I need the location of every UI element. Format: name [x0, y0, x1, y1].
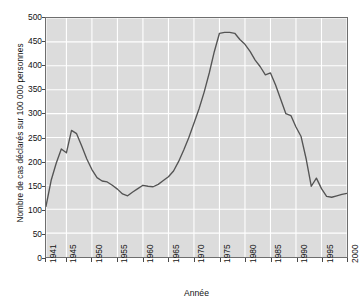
x-tick-label: 1985: [274, 244, 283, 263]
x-tick-label: 1970: [197, 244, 206, 263]
x-tick-label: 2000: [351, 244, 360, 263]
x-tick-label: 1960: [146, 244, 155, 263]
x-axis-title: Année: [45, 288, 348, 298]
y-tick-label: 300: [18, 109, 42, 118]
x-tick-label: 1995: [326, 244, 335, 263]
y-tick-label: 250: [18, 133, 42, 142]
x-tick-label: 1945: [69, 244, 78, 263]
x-tick-mark: [194, 258, 195, 262]
x-tick-mark: [117, 258, 118, 262]
y-tick-label: 400: [18, 61, 42, 70]
x-tick-label: 1950: [95, 244, 104, 263]
x-tick-mark: [91, 258, 92, 262]
y-tick-label: 150: [18, 181, 42, 190]
x-tick-label: 1975: [223, 244, 232, 263]
y-tick-label: 100: [18, 205, 42, 214]
y-axis-tick-labels: 050100150200250300350400450500: [18, 17, 42, 258]
x-tick-mark: [347, 258, 348, 262]
plot-area: [45, 17, 348, 258]
x-tick-mark: [245, 258, 246, 262]
x-tick-label: 1965: [172, 244, 181, 263]
data-series-line: [46, 18, 347, 257]
x-tick-mark: [168, 258, 169, 262]
x-tick-mark: [143, 258, 144, 262]
y-tick-label: 350: [18, 85, 42, 94]
line-chart-figure: Nombre de cas déclarés sur 100 000 perso…: [0, 0, 360, 300]
x-tick-mark: [220, 258, 221, 262]
x-tick-mark: [297, 258, 298, 262]
x-tick-mark: [271, 258, 272, 262]
y-tick-label: 450: [18, 37, 42, 46]
x-tick-mark: [322, 258, 323, 262]
y-tick-label: 200: [18, 157, 42, 166]
x-tick-mark: [66, 258, 67, 262]
y-tick-label: 500: [18, 13, 42, 22]
x-tick-mark: [45, 258, 46, 262]
y-tick-label: 50: [18, 229, 42, 238]
x-tick-label: 1941: [49, 244, 58, 263]
x-tick-label: 1980: [249, 244, 258, 263]
x-tick-label: 1955: [120, 244, 129, 263]
x-tick-label: 1990: [300, 244, 309, 263]
y-tick-label: 0: [18, 254, 42, 263]
